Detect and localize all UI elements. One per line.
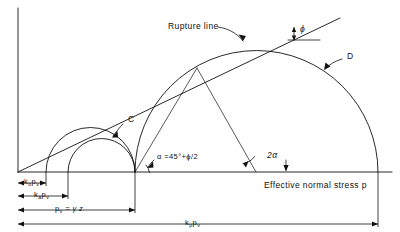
two-alpha-angle-label: 2α: [267, 150, 277, 160]
dim-pv-tail: = γ z: [65, 204, 83, 213]
dim-arrow-kp-left: [18, 222, 24, 227]
axis-label-arrowhead: [283, 165, 288, 172]
figure-canvas: Rupture line ϕ C D α =45°+ϕ/2 2α Effecti…: [0, 0, 400, 232]
dim-arrow-k0-right: [40, 181, 46, 186]
normal-stress-axis-label: Effective normal stress p: [264, 180, 367, 190]
dim-arrow-pv-right: [129, 208, 135, 213]
two-alpha-arrowhead: [243, 161, 249, 168]
phi-angle-label: ϕ: [300, 24, 305, 34]
dim-arrow-pv-left: [18, 208, 24, 213]
dim-k0pv-tail-sub: v: [36, 181, 39, 187]
dim-kapv-tail-sub: v: [46, 194, 49, 200]
dimension-label-k0pv: kopv: [24, 177, 39, 187]
rupture-line-label: Rupture line: [168, 21, 219, 31]
alpha-angle-label: α =45°+ϕ/2: [157, 152, 198, 161]
mohr-circle-diagram: [0, 0, 400, 232]
dimension-label-pv: pv = γ z: [55, 204, 83, 214]
dim-arrow-kp-right: [372, 222, 378, 227]
alpha-label-arrowhead: [148, 162, 154, 169]
dimension-label-kppv: kppv: [185, 218, 200, 228]
rupture-line-leader: [218, 27, 243, 41]
circle-k0: [46, 128, 135, 173]
dim-kppv-tail-sub: v: [197, 222, 200, 228]
rupture-line: [18, 18, 340, 172]
circle-c-arrowhead: [112, 131, 118, 138]
dim-arrow-ka-left: [18, 194, 24, 199]
dimension-label-kapv: kapv: [34, 190, 49, 200]
two-alpha-angle-arc: [243, 157, 255, 164]
phi-arrowhead-up: [292, 27, 296, 32]
circle-c-label: C: [128, 114, 135, 124]
circle-d-label: D: [347, 51, 354, 61]
dim-arrow-ka-right: [62, 194, 68, 199]
chord-two-alpha: [197, 68, 256, 172]
dim-pv-base-sub: v: [60, 208, 63, 214]
circle-d-arrowhead: [324, 63, 331, 71]
